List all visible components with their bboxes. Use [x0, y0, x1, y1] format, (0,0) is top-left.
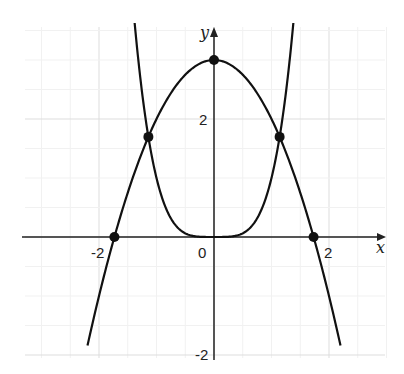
point-x-intercept — [109, 232, 119, 242]
y-tick-2: 2 — [199, 111, 207, 128]
y-tick-neg2: -2 — [195, 346, 208, 363]
tick-labels: -2 0 2 2 -2 x y — [91, 23, 385, 363]
point-x-intercept — [309, 232, 319, 242]
x-tick-0: 0 — [198, 244, 206, 261]
x-tick-2: 2 — [324, 244, 332, 261]
graph: -2 0 2 2 -2 x y — [0, 0, 404, 374]
y-axis-label: y — [199, 23, 210, 42]
x-axis-label: x — [376, 238, 385, 257]
y-axis-arrow-icon — [210, 27, 218, 37]
point-vertex — [209, 55, 219, 65]
point-intersection — [143, 132, 153, 142]
x-tick-neg2: -2 — [91, 244, 104, 261]
point-intersection — [275, 132, 285, 142]
